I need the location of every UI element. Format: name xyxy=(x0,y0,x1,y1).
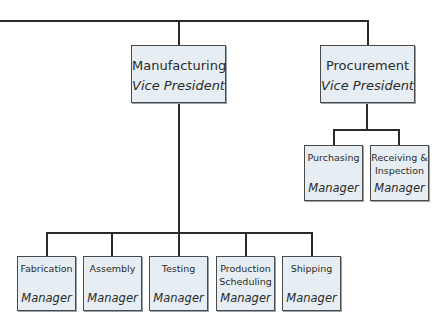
receiving-up-line xyxy=(398,129,400,145)
node-title: Receiving & Inspection xyxy=(371,151,428,177)
node-role: Manager xyxy=(217,291,274,305)
purchasing-up-line xyxy=(333,129,335,145)
production-up-line xyxy=(245,232,247,256)
receiving-manager-box: Receiving & Inspection Manager xyxy=(370,145,429,201)
shipping-manager-box: Shipping Manager xyxy=(282,256,341,311)
node-title: Testing xyxy=(150,262,207,275)
proc-branch-line xyxy=(333,129,399,131)
manufacturing-vp-box: Manufacturing Vice President xyxy=(131,45,226,103)
node-role: Manager xyxy=(150,291,207,305)
node-title: Purchasing xyxy=(305,151,362,164)
assembly-manager-box: Assembly Manager xyxy=(83,256,142,311)
node-title: Shipping xyxy=(283,262,340,275)
node-role: Manager xyxy=(305,181,362,195)
node-role: Vice President xyxy=(321,78,414,93)
node-role: Manager xyxy=(84,291,141,305)
node-role: Vice President xyxy=(132,78,225,93)
node-role: Manager xyxy=(371,181,428,195)
proc-vp-up-line xyxy=(367,20,369,45)
top-connector-line xyxy=(0,20,368,22)
purchasing-manager-box: Purchasing Manager xyxy=(304,145,363,201)
node-role: Manager xyxy=(283,291,340,305)
shipping-up-line xyxy=(311,232,313,256)
testing-manager-box: Testing Manager xyxy=(149,256,208,311)
procurement-vp-box: Procurement Vice President xyxy=(320,45,415,103)
production-scheduling-manager-box: Production Scheduling Manager xyxy=(216,256,275,311)
mfg-vp-up-line xyxy=(178,20,180,45)
mfg-branch-line xyxy=(46,232,313,234)
node-title: Manufacturing xyxy=(132,58,225,73)
node-role: Manager xyxy=(18,291,75,305)
node-title: Assembly xyxy=(84,262,141,275)
fabrication-up-line xyxy=(46,232,48,256)
fabrication-manager-box: Fabrication Manager xyxy=(17,256,76,311)
node-title: Production Scheduling xyxy=(217,262,274,288)
assembly-up-line xyxy=(111,232,113,256)
proc-down-line xyxy=(366,102,368,130)
node-title: Fabrication xyxy=(18,262,75,275)
node-title: Procurement xyxy=(321,58,414,73)
